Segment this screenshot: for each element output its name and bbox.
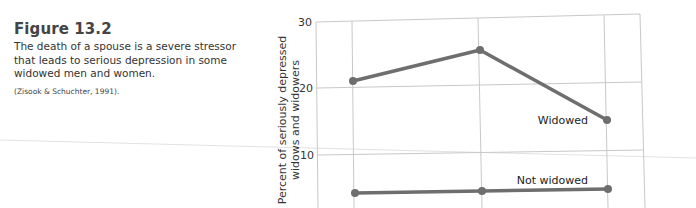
label-not-widowed: Not widowed — [517, 174, 588, 187]
data-point — [476, 46, 484, 54]
data-point — [349, 77, 357, 85]
y-axis-label: Percent of seriously depressed widows an… — [276, 36, 302, 205]
page-fold-line — [0, 140, 696, 158]
data-point — [603, 116, 611, 124]
data-point — [351, 189, 359, 197]
svg-text:widows and widowers: widows and widowers — [289, 60, 302, 180]
data-point — [604, 185, 612, 193]
data-point — [478, 187, 486, 195]
grid — [316, 14, 645, 208]
label-widowed: Widowed — [538, 114, 588, 127]
line-chart: 30 20 10 Percent of seriously depressed … — [0, 0, 696, 208]
svg-text:Percent of seriously depressed: Percent of seriously depressed — [276, 36, 289, 205]
y-tick-10: 10 — [300, 149, 314, 162]
y-tick-30: 30 — [298, 16, 312, 29]
